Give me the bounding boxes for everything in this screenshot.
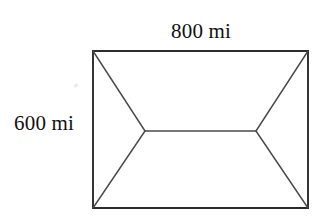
geometry-figure: 800 mi 600 mi [0,0,321,222]
width-dimension-label: 800 mi [171,21,231,42]
height-dimension-label: 600 mi [14,113,74,134]
